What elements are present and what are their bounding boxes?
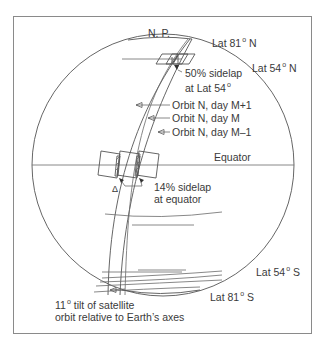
degree-symbol: o [227, 81, 231, 88]
tilt-label: 11o tilt of satellite orbit relative to … [55, 296, 184, 323]
lat54n-label: Lat 54o N [252, 59, 297, 74]
equator-label: Equator [214, 151, 251, 163]
degree-symbol: o [286, 265, 290, 272]
tilt-value: 11 [55, 299, 66, 311]
lat54n-text: Lat 54 [252, 62, 281, 74]
orbit-m-minus-1-label: Orbit N, day M–1 [172, 126, 251, 138]
lat54s-suffix: S [293, 266, 300, 278]
lat81s-label: Lat 81o S [210, 288, 254, 303]
lat54n-suffix: N [289, 62, 297, 74]
sidelap14-line1: 14% sidelap [154, 181, 211, 193]
orbit-track-m-plus-1 [108, 39, 190, 295]
degree-symbol: o [282, 61, 286, 68]
orbit-diagram [0, 0, 329, 340]
orbit-track-m-minus-1 [125, 39, 188, 295]
lat54s-label: Lat 54o S [256, 263, 300, 278]
north-pole-label: N. P. [148, 27, 170, 39]
sidelap50-line1: 50% sidelap [185, 67, 242, 79]
lat81n-label: Lat 81o N [212, 34, 257, 49]
sidelap14-label: 14% sidelap at equator [154, 181, 211, 205]
tilt-line2: orbit relative to Earth’s axes [55, 311, 184, 323]
degree-symbol: o [67, 298, 71, 305]
tilt-line1-text: tilt of satellite [74, 299, 135, 311]
sidelap14-line2: at equator [154, 193, 211, 205]
delta-label: Δ [112, 183, 118, 195]
lat54s-text: Lat 54 [256, 266, 285, 278]
sidelap50-line2-text: at Lat 54 [185, 82, 226, 94]
lat81s-text: Lat 81 [210, 291, 239, 303]
sidelap50-label: 50% sidelap at Lat 54o [185, 67, 242, 94]
degree-symbol: o [242, 36, 246, 43]
lat81n-text: Lat 81 [212, 37, 241, 49]
tilt-line1: 11o tilt of satellite [55, 296, 184, 311]
degree-symbol: o [240, 290, 244, 297]
lat81s-suffix: S [247, 291, 254, 303]
orbit-track-m [120, 39, 192, 295]
orbit-m-plus-1-label: Orbit N, day M+1 [172, 99, 252, 111]
sidelap50-line2: at Lat 54o [185, 79, 242, 94]
orbit-m-label: Orbit N, day M [172, 112, 240, 124]
lat81n-suffix: N [249, 37, 257, 49]
